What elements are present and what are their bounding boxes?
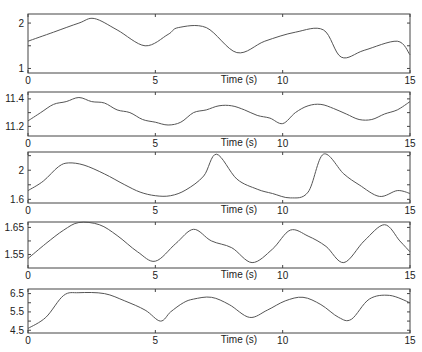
x-tick-label: 0	[25, 138, 31, 149]
x-tick-label: 10	[277, 270, 289, 281]
x-tick-label: 0	[25, 75, 31, 86]
y-tick-label: 4.5	[10, 325, 24, 336]
y-tick-label: 11.2	[5, 121, 24, 132]
x-tick-label: 5	[153, 270, 159, 281]
x-tick-label: 5	[153, 75, 159, 86]
y-tick-label: 1.65	[5, 222, 25, 233]
x-tick-label: 0	[25, 335, 31, 346]
x-tick-label: 0	[25, 205, 31, 216]
x-tick-label: 15	[404, 75, 416, 86]
x-tick-label: 5	[153, 205, 159, 216]
axes-frame	[28, 289, 410, 333]
y-tick-label: 5.5	[10, 306, 24, 317]
y-tick-label: 6.5	[10, 288, 24, 299]
subplot-1: 051015Time (s)12	[18, 14, 416, 86]
y-tick-label: 11.4	[5, 93, 24, 104]
x-tick-label: 15	[404, 138, 416, 149]
subplot-5: 051015Time (s)4.55.56.5	[10, 288, 416, 346]
x-tick-label: 15	[404, 205, 416, 216]
x-tick-label: 5	[153, 335, 159, 346]
x-tick-label: 10	[277, 138, 289, 149]
x-axis-label: Time (s)	[221, 269, 257, 280]
x-tick-label: 15	[404, 335, 416, 346]
axes-frame	[28, 222, 410, 268]
data-line	[28, 154, 410, 198]
data-line	[28, 18, 410, 58]
axes-frame	[28, 92, 410, 136]
axes-frame	[28, 152, 410, 203]
x-axis-label: Time (s)	[221, 74, 257, 85]
x-tick-label: 5	[153, 138, 159, 149]
y-tick-label: 1.55	[5, 249, 25, 260]
subplot-2: 051015Time (s)11.211.4	[5, 92, 416, 149]
x-tick-label: 15	[404, 270, 416, 281]
x-tick-label: 10	[277, 75, 289, 86]
y-tick-label: 2	[18, 165, 24, 176]
x-axis-label: Time (s)	[221, 334, 257, 345]
x-axis-label: Time (s)	[221, 204, 257, 215]
subplot-4: 051015Time (s)1.551.65	[5, 222, 416, 281]
x-tick-label: 10	[277, 335, 289, 346]
data-line	[28, 292, 410, 328]
y-tick-label: 2	[18, 18, 24, 29]
y-tick-label: 1	[18, 63, 24, 74]
x-tick-label: 10	[277, 205, 289, 216]
data-line	[28, 98, 410, 126]
axes-frame	[28, 14, 410, 73]
data-line	[28, 222, 410, 262]
x-tick-label: 0	[25, 270, 31, 281]
multi-panel-time-series-figure: 051015Time (s)12051015Time (s)11.211.405…	[0, 0, 422, 352]
subplot-3: 051015Time (s)1.62	[10, 152, 416, 216]
y-tick-label: 1.6	[10, 194, 24, 205]
x-axis-label: Time (s)	[221, 137, 257, 148]
